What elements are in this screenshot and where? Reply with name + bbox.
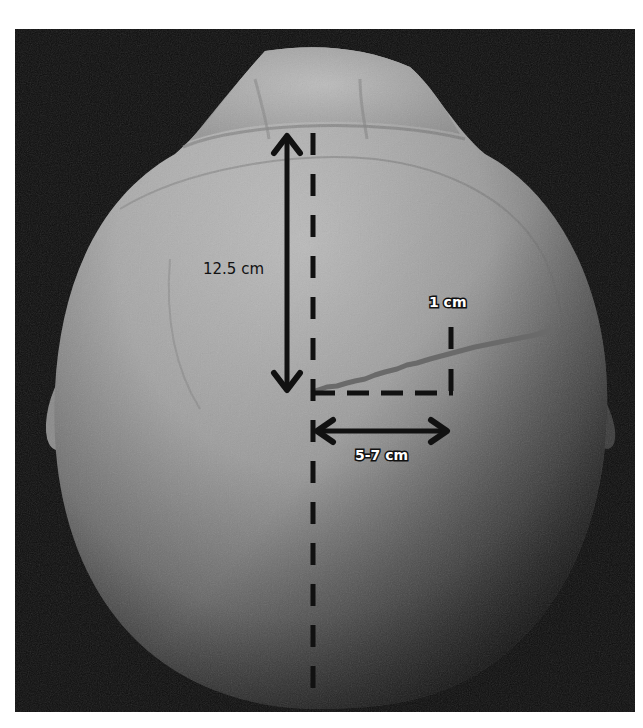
small-vertical-measurement-label: 1 cm bbox=[429, 294, 467, 310]
vertical-measurement-label: 12.5 cm bbox=[203, 260, 264, 278]
horizontal-measurement-label: 5-7 cm bbox=[355, 447, 408, 463]
skull-illustration: 12.5 cm 1 cm 5-7 cm bbox=[15, 29, 635, 712]
skull-photograph: 12.5 cm 1 cm 5-7 cm bbox=[15, 29, 635, 712]
photo-grain bbox=[15, 29, 635, 712]
